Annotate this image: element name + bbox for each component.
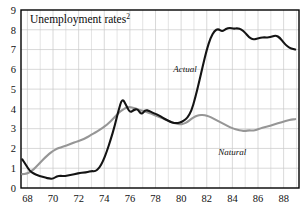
- chart-title-text: Unemployment rates2: [30, 12, 130, 26]
- x-tick-label: 88: [278, 193, 289, 204]
- annotation-natural: Natural: [217, 147, 247, 157]
- x-tick-label: 80: [176, 193, 187, 204]
- x-tick-label: 84: [227, 193, 238, 204]
- y-tick-label: 5: [11, 84, 16, 95]
- y-tick-label: 0: [11, 183, 16, 194]
- y-tick-label: 1: [11, 163, 16, 174]
- unemployment-rates-chart: 6870727476788082848688 0123456789 Actual…: [0, 0, 305, 212]
- x-tick-label: 72: [73, 193, 84, 204]
- y-tick-label: 7: [11, 44, 16, 55]
- x-tick-label: 82: [202, 193, 213, 204]
- chart-title: Unemployment rates2: [30, 12, 130, 26]
- y-tick-label: 9: [11, 5, 16, 16]
- x-tick-label: 68: [22, 193, 33, 204]
- y-tick-label: 6: [11, 64, 16, 75]
- y-tick-label: 3: [11, 123, 16, 134]
- x-tick-label: 76: [125, 193, 136, 204]
- chart-background: [0, 0, 305, 212]
- x-tick-label: 74: [99, 193, 110, 204]
- y-tick-label: 4: [11, 104, 17, 115]
- chart-canvas: 6870727476788082848688 0123456789 Actual…: [0, 0, 305, 212]
- y-tick-label: 8: [11, 25, 16, 36]
- x-tick-label: 70: [48, 193, 59, 204]
- x-tick-label: 86: [253, 193, 264, 204]
- y-tick-label: 2: [11, 143, 16, 154]
- annotation-actual: Actual: [172, 64, 197, 74]
- x-tick-label: 78: [150, 193, 161, 204]
